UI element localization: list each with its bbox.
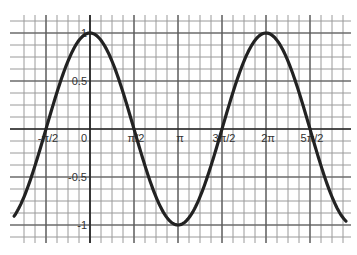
x-tick-label: π [176, 132, 184, 144]
y-tick-label: 0.5 [72, 75, 87, 87]
x-tick-labels: -π/20π/2π3π/22π5π/2 [38, 132, 324, 144]
x-tick-label: 0 [81, 132, 87, 144]
x-tick-label: 3π/2 [213, 132, 236, 144]
axes [10, 15, 351, 243]
cosine-chart: -π/20π/2π3π/22π5π/2 10.5-0.5-1 [0, 0, 357, 255]
x-tick-label: 2π [261, 132, 275, 144]
y-tick-label: -1 [77, 219, 87, 231]
y-tick-label: -0.5 [68, 171, 87, 183]
